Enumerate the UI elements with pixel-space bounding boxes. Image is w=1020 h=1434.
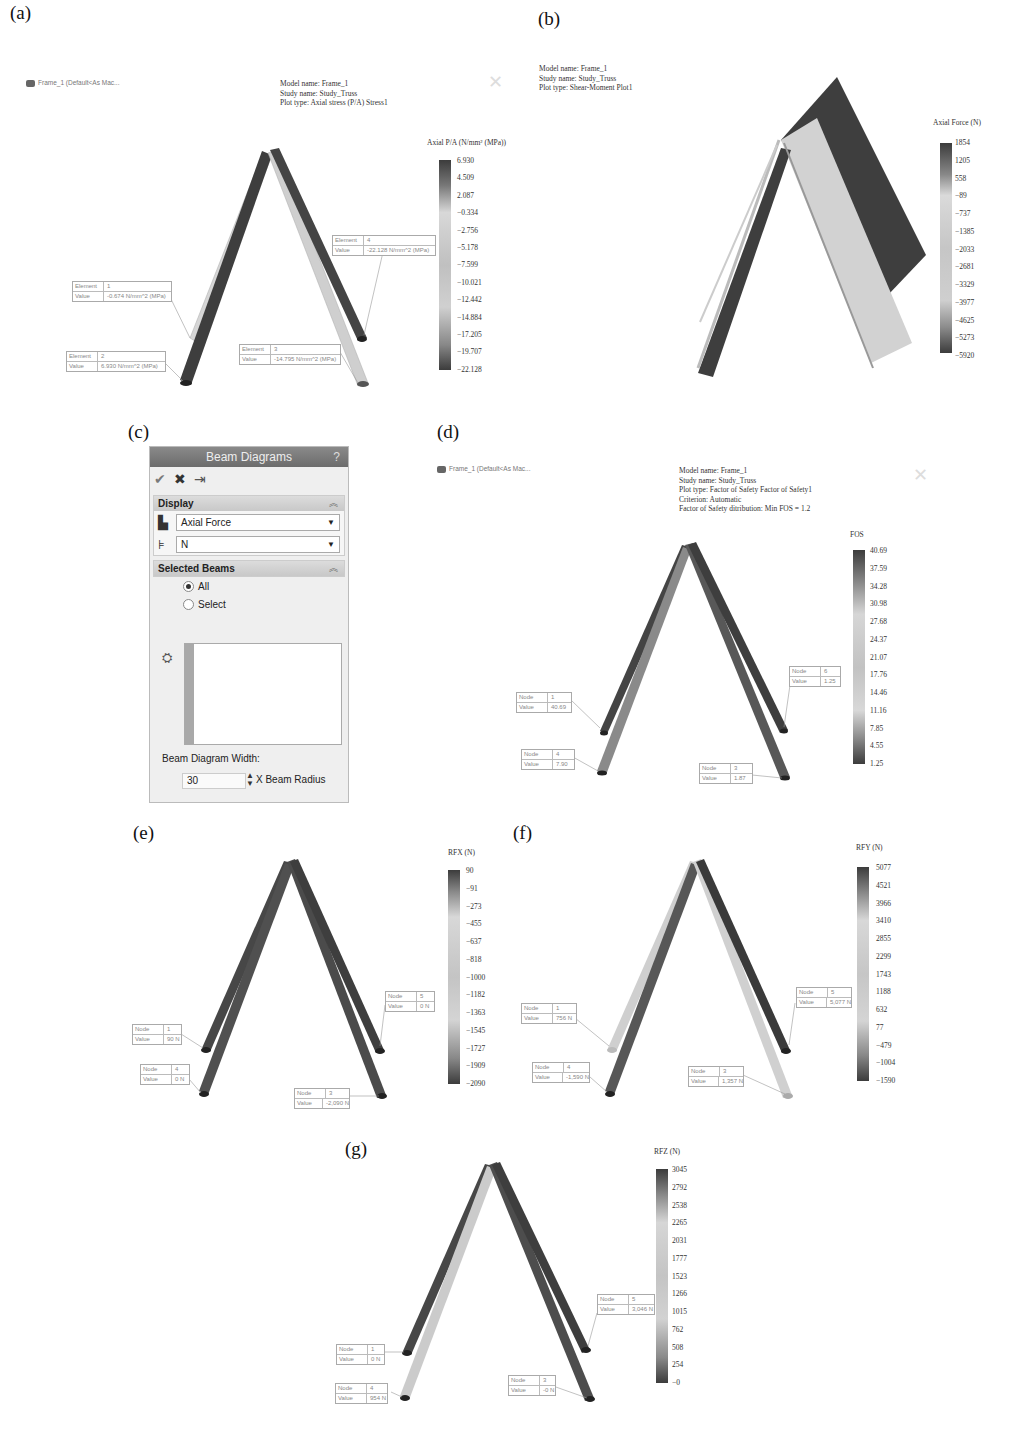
callout-key: Node [598, 1295, 629, 1304]
node-callout: Node3 Value-0 N [508, 1375, 556, 1396]
legend-tick: 2538 [672, 1201, 687, 1210]
callout-value: 1 [368, 1345, 384, 1354]
legend-tick: 2031 [672, 1236, 687, 1245]
node-callout: Node1 Value0 N [336, 1344, 385, 1365]
callout-value: 4 [367, 1384, 387, 1393]
legend-color-bar [656, 1169, 668, 1383]
node-callout: Node4 Value954 N [335, 1383, 388, 1404]
legend-title: RFZ (N) [654, 1147, 680, 1156]
callout-key: Node [509, 1376, 540, 1385]
callout-key: Node [336, 1384, 367, 1393]
callout-value: 5 [629, 1295, 654, 1304]
legend-tick: 1523 [672, 1272, 687, 1281]
callout-key: Value [598, 1305, 629, 1314]
legend-tick: 2265 [672, 1218, 687, 1227]
legend-ticks: 3045 2792 2538 2265 2031 1777 1523 1266 … [672, 1165, 687, 1387]
callout-key: Value [337, 1355, 368, 1364]
legend-tick: 2792 [672, 1183, 687, 1192]
legend-tick: 1777 [672, 1254, 687, 1263]
legend-tick: 1266 [672, 1289, 687, 1298]
legend-tick: 1015 [672, 1307, 687, 1316]
node-callout: Node5 Value3,046 N [597, 1294, 655, 1315]
legend-tick: −0 [672, 1378, 687, 1387]
legend-tick: 254 [672, 1360, 687, 1369]
legend-tick: 3045 [672, 1165, 687, 1174]
truss-model [0, 0, 1020, 1434]
callout-key: Value [336, 1394, 367, 1403]
callout-key: Value [509, 1386, 540, 1395]
callout-value: 3 [540, 1376, 555, 1385]
callout-key: Node [337, 1345, 368, 1354]
callout-value: 3,046 N [629, 1305, 654, 1314]
callout-value: -0 N [540, 1386, 555, 1395]
callout-value: 0 N [368, 1355, 384, 1364]
legend-tick: 762 [672, 1325, 687, 1334]
legend-tick: 508 [672, 1343, 687, 1352]
callout-value: 954 N [367, 1394, 387, 1403]
